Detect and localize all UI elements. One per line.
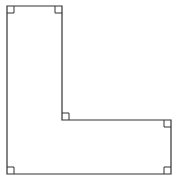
right-angle-markers — [7, 6, 171, 174]
right-angle-marker-bottom-right — [164, 167, 171, 174]
l-shape-outline — [7, 6, 171, 174]
right-angle-marker-right-top — [164, 120, 171, 127]
right-angle-marker-inner-corner — [62, 113, 69, 120]
l-shape-diagram — [0, 0, 178, 178]
right-angle-marker-top-left — [7, 6, 14, 13]
right-angle-marker-bottom-left — [7, 167, 14, 174]
right-angle-marker-top-right — [55, 6, 62, 13]
